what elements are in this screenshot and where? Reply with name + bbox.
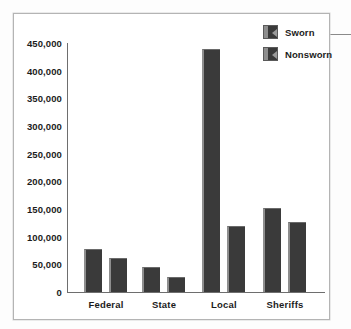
legend-item-sworn[interactable]: Sworn	[263, 21, 332, 43]
figure-frame: 450,000400,000350,000300,000250,000200,0…	[13, 13, 330, 320]
bar-sheriffs-sworn	[263, 208, 281, 292]
bar-local-sworn	[202, 49, 220, 292]
x-axis-line	[67, 292, 325, 293]
y-axis-tick-label: 450,000	[27, 38, 62, 49]
y-axis-tick-label: 100,000	[27, 231, 62, 242]
legend-swatch-nonsworn-icon	[263, 47, 278, 61]
bar-sheriffs-nonsworn	[288, 222, 306, 292]
legend-label: Nonsworn	[285, 49, 332, 60]
x-axis-label-local: Local	[211, 299, 237, 310]
bar-state-nonsworn	[167, 277, 185, 292]
page-rule-divider	[330, 34, 351, 35]
y-axis-tick-label: 150,000	[27, 204, 62, 215]
plot-area: 450,000400,000350,000300,000250,000200,0…	[67, 43, 334, 292]
bar-group-federal	[84, 43, 129, 292]
chart-page: 450,000400,000350,000300,000250,000200,0…	[0, 0, 351, 329]
bar-group-local	[202, 43, 247, 292]
bar-group-sheriffs	[263, 43, 308, 292]
legend-label: Sworn	[285, 27, 315, 38]
y-axis-line	[67, 43, 68, 292]
bar-state-sworn	[142, 267, 160, 292]
x-axis-label-federal: Federal	[88, 299, 123, 310]
chart-legend: SwornNonsworn	[263, 21, 332, 65]
y-axis-tick-label: 400,000	[27, 65, 62, 76]
x-axis-label-sheriffs: Sheriffs	[267, 299, 304, 310]
y-axis-tick-label: 200,000	[27, 176, 62, 187]
y-axis-tick-label: 50,000	[32, 259, 62, 270]
bar-local-nonsworn	[227, 226, 245, 292]
y-axis-tick-label: 300,000	[27, 121, 62, 132]
legend-item-nonsworn[interactable]: Nonsworn	[263, 43, 332, 65]
y-axis-tick-label: 0	[57, 287, 62, 298]
legend-swatch-sworn-icon	[263, 25, 278, 39]
bar-group-state	[142, 43, 187, 292]
y-axis-tick-label: 250,000	[27, 148, 62, 159]
bar-federal-sworn	[84, 249, 102, 292]
bar-federal-nonsworn	[109, 258, 127, 292]
y-axis-tick-label: 350,000	[27, 93, 62, 104]
x-axis-label-state: State	[152, 299, 176, 310]
